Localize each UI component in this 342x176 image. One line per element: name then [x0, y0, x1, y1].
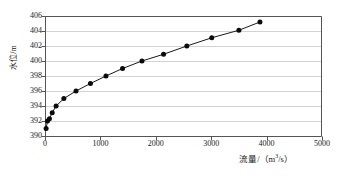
data-point [74, 89, 79, 94]
data-point [184, 44, 189, 49]
data-point [54, 104, 59, 109]
data-point [50, 110, 55, 115]
data-point [236, 28, 241, 33]
data-point [44, 126, 49, 131]
data-markers [44, 20, 263, 132]
data-point [209, 35, 214, 40]
plot-area [0, 0, 342, 176]
chart-figure: 水位/m 390392394396398400402404406 0100020… [0, 0, 342, 176]
data-point [88, 81, 93, 86]
data-point [257, 20, 262, 25]
data-point [103, 74, 108, 79]
data-point [47, 116, 52, 121]
data-line [46, 22, 260, 129]
gridlines [45, 17, 322, 137]
data-point [120, 66, 125, 71]
data-point [61, 96, 66, 101]
data-point [161, 52, 166, 57]
data-point [139, 59, 144, 64]
